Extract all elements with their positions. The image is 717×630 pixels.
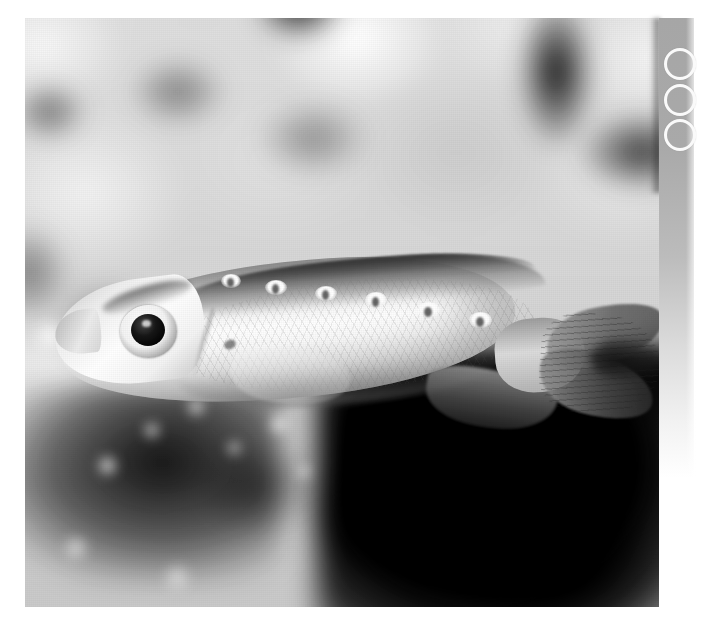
punch-ring-icon-1 <box>664 48 696 80</box>
page-root <box>0 0 717 630</box>
punch-ring-icon-2 <box>664 84 696 116</box>
film-grain-overlay <box>25 18 659 607</box>
photograph <box>25 18 659 607</box>
punch-ring-icon-3 <box>664 119 696 151</box>
